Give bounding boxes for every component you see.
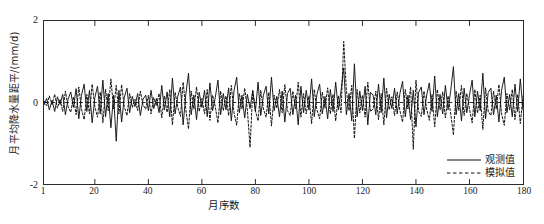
x-tick-label: 20 xyxy=(89,187,99,197)
x-tick-label: 120 xyxy=(356,187,370,197)
x-tick-label: 140 xyxy=(409,187,423,197)
x-tick-label: 100 xyxy=(302,187,316,197)
x-axis-title-text: 月序数 xyxy=(208,199,239,211)
x-tick-label: 180 xyxy=(517,187,531,197)
legend-key-dashed-line-icon xyxy=(447,168,481,177)
legend-item-observed: 观测值 xyxy=(447,154,515,165)
legend-label-observed: 观测值 xyxy=(485,155,515,165)
x-tick-label: 60 xyxy=(197,187,207,197)
plot-area: 观测值 模拟值 xyxy=(43,20,524,185)
y-tick-label: 2 xyxy=(33,15,38,25)
legend-key-solid-line-icon xyxy=(447,155,481,164)
legend: 观测值 模拟值 xyxy=(447,154,515,178)
x-tick-label: 1 xyxy=(41,187,46,197)
x-tick-label: 80 xyxy=(251,187,261,197)
x-tick-label: 160 xyxy=(463,187,477,197)
legend-label-simulated: 模拟值 xyxy=(485,168,515,178)
precipitation-anomaly-chart: 月平均降水量距平/(mm/d) -202 观测值 xyxy=(0,0,544,224)
x-tick-label: 40 xyxy=(143,187,153,197)
legend-item-simulated: 模拟值 xyxy=(447,167,515,178)
y-tick-label: 0 xyxy=(33,98,38,108)
x-axis-title: 月序数 xyxy=(0,200,544,211)
